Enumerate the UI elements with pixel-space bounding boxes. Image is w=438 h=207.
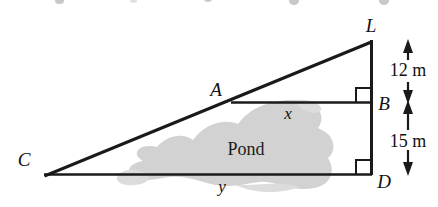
right-angle-at-B [356,88,371,102]
vertex-label-L: L [365,15,377,36]
vertex-label-B: B [378,93,390,114]
dimension-label-12m: 12 m [390,60,427,80]
side-label-y: y [216,177,226,196]
side-label-x: x [283,104,292,123]
right-angle-marks-group [356,88,371,174]
pond-fringe-bottom [236,184,299,192]
vertex-label-D: D [376,171,391,192]
vertex-label-C: C [18,149,31,170]
vertex-label-A: A [208,79,222,100]
diagram-canvas: L A B C D x y Pond 1 [0,0,438,207]
pond-label: Pond [227,139,264,159]
geometry-figure: L A B C D x y Pond 1 [0,0,438,207]
dimension-label-15m: 15 m [390,131,427,151]
right-angle-at-D [356,160,371,174]
